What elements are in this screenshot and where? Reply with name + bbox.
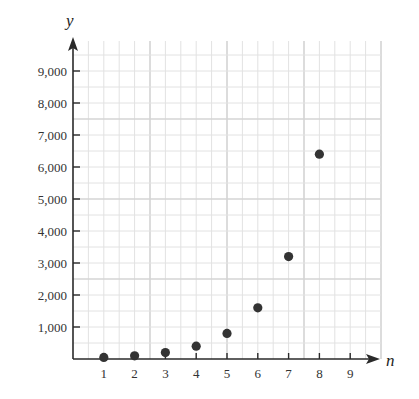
x-tick-label: 2 (131, 366, 138, 381)
y-tick-label: 5,000 (38, 192, 67, 207)
x-tick-label: 6 (255, 366, 262, 381)
x-tick-label: 7 (285, 366, 292, 381)
x-axis-label: n (386, 351, 395, 370)
data-point (99, 353, 108, 362)
data-point (192, 342, 201, 351)
y-tick-label: 6,000 (38, 160, 67, 175)
y-tick-label: 8,000 (38, 96, 67, 111)
x-tick-label: 1 (101, 366, 108, 381)
data-point (222, 329, 231, 338)
y-tick-label: 7,000 (38, 128, 67, 143)
y-tick-label: 9,000 (38, 64, 67, 79)
y-tick-label: 2,000 (38, 288, 67, 303)
x-tick-label: 8 (316, 366, 323, 381)
data-point (161, 348, 170, 357)
y-tick-label: 4,000 (38, 224, 67, 239)
data-point (253, 303, 262, 312)
scatter-chart: 123456789 1,0002,0003,0004,0005,0006,000… (0, 0, 419, 399)
x-tick-label: 9 (347, 366, 354, 381)
data-point (315, 150, 324, 159)
x-tick-label: 4 (193, 366, 200, 381)
y-axis-label: y (64, 11, 74, 30)
data-point (284, 252, 293, 261)
x-tick-label: 3 (162, 366, 169, 381)
y-tick-label: 3,000 (38, 256, 67, 271)
grid (73, 41, 381, 359)
axes (68, 37, 380, 364)
y-tick-label: 1,000 (38, 320, 67, 335)
data-point (130, 351, 139, 360)
x-tick-label: 5 (224, 366, 231, 381)
